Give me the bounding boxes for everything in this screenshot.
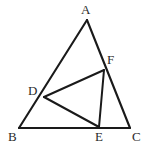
- vertex-label-b: B: [8, 130, 17, 143]
- vertex-label-a: A: [81, 3, 90, 16]
- segment-FE: [99, 70, 104, 127]
- vertex-label-d: D: [28, 84, 37, 97]
- vertex-label-e: E: [95, 130, 103, 143]
- vertex-label-c: C: [132, 130, 141, 143]
- figure-canvas: [0, 0, 147, 151]
- vertex-label-f: F: [107, 53, 114, 66]
- segment-DE: [44, 97, 99, 127]
- side-AB: [19, 20, 87, 128]
- geometry-figure: A B C D E F: [0, 0, 147, 151]
